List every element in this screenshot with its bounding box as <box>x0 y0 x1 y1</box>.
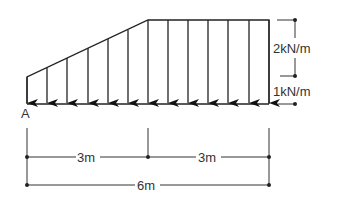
load-diagram: 2kN/m 1kN/m A 3m 3m 6m <box>0 0 337 197</box>
total-span-label: 6m <box>137 178 155 193</box>
right-span-label: 3m <box>198 150 216 165</box>
load-arrows <box>27 20 269 103</box>
left-span-label: 3m <box>77 150 95 165</box>
support-label: A <box>21 106 30 121</box>
upper-load-label: 2kN/m <box>273 41 311 56</box>
base-load-label: 1kN/m <box>273 84 311 99</box>
